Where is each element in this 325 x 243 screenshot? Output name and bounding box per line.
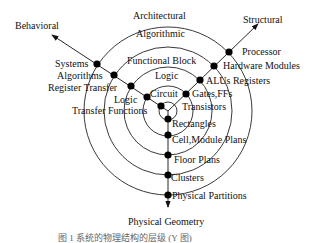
structural-gates-ffs: Gates,FFs <box>192 88 232 99</box>
structural-alus-registers: ALUs Registers <box>206 75 270 86</box>
physical-partitions: Physical Partitions <box>172 190 247 201</box>
behavioral-label: Behavioral <box>15 20 59 31</box>
structural-processor: Processor <box>242 46 282 57</box>
figure-caption: 图 1 系统的物理结构的层级 (Y 图) <box>58 232 192 243</box>
structural-transistors: Transistors <box>182 101 226 112</box>
behavioral-transfer-functions: Transfer Functions <box>72 105 148 116</box>
level-architectural: Architectural <box>133 10 186 21</box>
behavioral-algorithms: Algorithms <box>57 70 103 81</box>
y-chart-diagram: Behavioral Structural Physical Geometry … <box>0 0 325 243</box>
physical-rectangles: Rectangles <box>172 118 216 129</box>
physical-cell-module-plans: Cell,Module Plans <box>172 134 247 145</box>
structural-label: Structural <box>243 14 283 25</box>
level-logic: Logic <box>155 70 179 81</box>
behavioral-logic: Logic <box>114 94 138 105</box>
behavioral-register-transfer: Register Transfer <box>48 82 118 93</box>
physical-floor-plans: Floor Plans <box>174 154 220 165</box>
level-circuit: Circuit <box>150 88 178 99</box>
level-functional-block: Functional Block <box>127 55 196 66</box>
structural-hardware-modules: Hardware Modules <box>223 60 300 71</box>
behavioral-systems: Systems <box>55 58 88 69</box>
physical-geometry-label: Physical Geometry <box>128 216 204 227</box>
physical-clusters: Clusters <box>171 172 204 183</box>
level-algorithmic: Algorithmic <box>136 28 185 39</box>
